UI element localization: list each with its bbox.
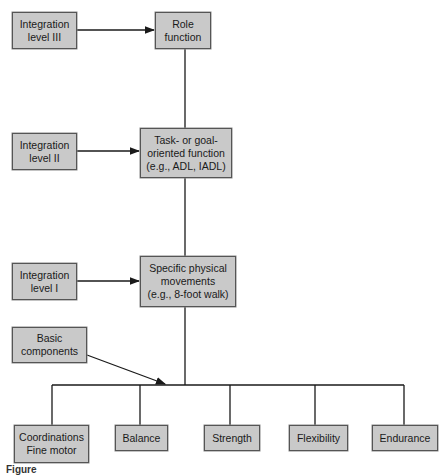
component-coordinations-box: CoordinationsFine motor (14, 425, 89, 463)
integration-level-1-box: Integrationlevel I (12, 263, 77, 300)
component-flexibility-box: Flexibility (289, 425, 348, 451)
arrow-basic-to-bus (87, 355, 165, 384)
task-function-box: Task- or goal-oriented function(e.g., AD… (140, 128, 232, 178)
figure-caption: Figure (6, 464, 37, 475)
role-function-box: Rolefunction (155, 12, 211, 49)
physical-movements-box: Specific physicalmovements(e.g., 8-foot … (140, 256, 236, 307)
component-strength-box: Strength (204, 425, 260, 451)
component-endurance-box: Endurance (372, 425, 438, 451)
integration-level-2-box: Integrationlevel II (12, 133, 77, 170)
component-balance-box: Balance (115, 425, 168, 451)
integration-level-3-box: Integrationlevel III (12, 12, 77, 49)
basic-components-box: Basiccomponents (12, 327, 87, 363)
